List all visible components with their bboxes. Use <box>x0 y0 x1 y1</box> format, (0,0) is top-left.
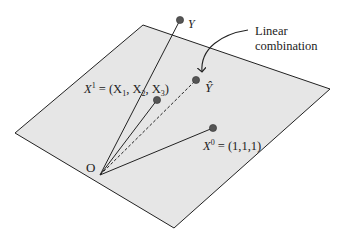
projection-diagram: O Y X1 = (X1, X2, X3) Ŷ X0 = (1,1,1) Lin… <box>0 0 341 239</box>
label-y: Y <box>188 17 196 31</box>
annotation-line2: combination <box>255 39 318 53</box>
label-x1: X1 = (X1, X2, X3) <box>83 81 169 98</box>
label-x1-close: ) <box>165 82 169 96</box>
origin-label: O <box>86 160 95 175</box>
point-x0 <box>209 124 216 131</box>
point-y <box>176 16 183 23</box>
label-x1-comma2: , X <box>145 82 160 96</box>
point-x1 <box>153 96 160 103</box>
label-x1-rest: = (X <box>96 82 123 96</box>
label-x0-rest: = (1,1,1) <box>215 139 262 153</box>
point-yhat <box>192 76 199 83</box>
label-x1-comma1: , X <box>126 82 141 96</box>
annotation-line1: Linear <box>255 24 288 38</box>
plane <box>15 25 330 228</box>
